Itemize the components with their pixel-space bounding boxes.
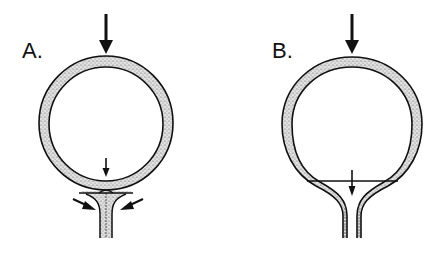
panel-b-label: B.	[272, 38, 293, 64]
panel-b	[282, 14, 422, 238]
arrow-inward-left-icon	[73, 199, 96, 210]
diagram-canvas	[0, 0, 441, 254]
arrow-down-small-icon	[103, 158, 110, 177]
arrow-inward-right-icon	[120, 199, 143, 210]
panel-a-label: A.	[22, 38, 43, 64]
arrow-down-icon	[99, 14, 113, 54]
arrow-down-small-icon	[349, 170, 356, 196]
panel-a	[39, 14, 173, 238]
panel-b-ring	[282, 57, 422, 238]
panel-a-stem	[79, 190, 133, 238]
arrow-down-icon	[345, 14, 359, 54]
